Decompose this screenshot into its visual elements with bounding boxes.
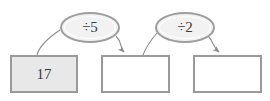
function-machine-diagram: 17 ÷5 ÷2 [0, 0, 270, 101]
connector-box1-to-op1 [37, 30, 60, 55]
operation-ellipse-divide-2[interactable]: ÷2 [155, 12, 215, 43]
operation-ellipse-divide-2-label: ÷2 [177, 20, 193, 35]
operation-ellipse-divide-5-label: ÷5 [82, 20, 98, 35]
input-box-1-label: 17 [37, 67, 52, 82]
input-box-1[interactable]: 17 [10, 55, 78, 93]
answer-box-2[interactable] [101, 55, 170, 93]
answer-box-3[interactable] [193, 55, 262, 93]
connector-box2-to-op2 [143, 33, 157, 55]
connector-op2-to-box3 [208, 36, 219, 52]
connector-op1-to-box2 [116, 36, 124, 52]
operation-ellipse-divide-5[interactable]: ÷5 [60, 12, 120, 43]
